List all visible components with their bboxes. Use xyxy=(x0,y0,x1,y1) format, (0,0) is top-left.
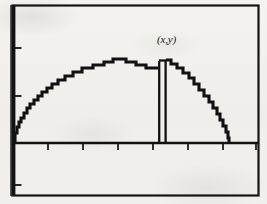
y-axis xyxy=(14,6,22,195)
curve-left-ascent xyxy=(15,59,158,142)
x-axis xyxy=(13,143,258,150)
riemann-rectangle xyxy=(159,61,166,144)
curve-semicircular-arc xyxy=(15,59,229,143)
point-coordinate-label: (x,y) xyxy=(157,34,176,45)
calculator-screen-figure: (x,y) xyxy=(0,0,267,204)
frame-outline xyxy=(13,6,259,196)
screen-frame xyxy=(11,5,259,196)
curve-right-descent xyxy=(166,60,229,143)
plot-canvas xyxy=(0,0,267,204)
